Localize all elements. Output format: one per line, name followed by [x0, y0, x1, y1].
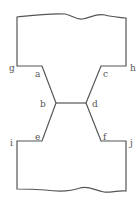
label-g: g — [9, 64, 15, 73]
label-h: h — [130, 64, 136, 73]
label-c: c — [103, 70, 108, 79]
label-d: d — [92, 100, 98, 109]
label-j: j — [130, 139, 133, 148]
label-i: i — [10, 139, 13, 148]
diagram-shape — [0, 0, 140, 206]
label-b: b — [40, 100, 46, 109]
label-f: f — [103, 133, 106, 142]
label-a: a — [35, 70, 40, 79]
label-e: e — [35, 133, 40, 142]
